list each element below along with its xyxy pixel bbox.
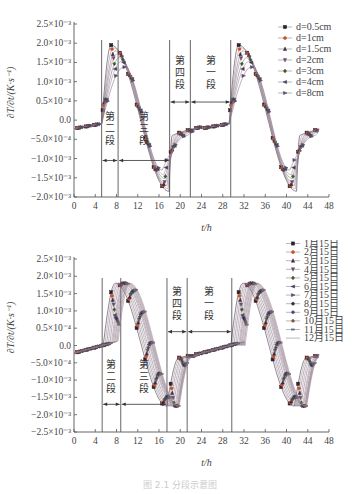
svg-text:段: 段 [206,78,216,90]
y-tick-label: −1.0×10⁻³ [31,154,71,164]
y-tick-label: 2.0×10⁻³ [36,271,71,281]
x-tick-label: 36 [261,201,271,211]
x-tick-label: 36 [261,436,271,446]
x-tick-label: 20 [176,201,186,211]
svg-text:第: 第 [172,285,182,297]
svg-text:段: 段 [204,309,214,321]
data-point-marker [297,382,300,385]
y-tick-label: −5.0×10⁻⁴ [31,358,72,368]
x-tick-label: 28 [218,436,228,446]
svg-text:第: 第 [139,358,149,370]
x-tick-label: 48 [324,436,334,446]
chart-depth-comparison: 2.5×10⁻³2.0×10⁻³1.5×10⁻³1.0×10⁻³0.5×10⁻⁴… [0,0,360,240]
x-tick-label: 8 [114,201,119,211]
legend-marker-icon [283,80,287,83]
legend: 1月15日2月15日3月15日4月15日5月15日6月15日7月15日8月15日… [286,240,344,343]
legend-label: d=4cm [296,76,324,87]
x-tick-label: 28 [218,201,228,211]
svg-text:第: 第 [105,110,115,122]
x-tick-label: 24 [197,201,207,211]
x-tick-label: 32 [239,201,249,211]
svg-text:一: 一 [206,67,216,78]
svg-text:二: 二 [105,123,115,134]
data-point-marker [238,47,241,50]
y-axis-title: ∂T/∂t/(K·s⁻¹) [5,66,17,118]
x-tick-label: 4 [93,436,98,446]
legend-label: d=0.5cm [296,21,332,32]
data-point-marker [112,57,115,61]
data-point-marker [313,362,316,363]
legend-item: d=3cm [278,65,324,76]
segment-label: 第一段 [206,54,216,90]
data-point-marker [186,362,189,363]
y-tick-label: −1.0×10⁻³ [31,375,71,385]
x-tick-label: 40 [282,201,292,211]
legend-item: d=2cm [278,54,324,65]
legend-item: d=1.5cm [278,43,332,54]
data-point-marker [110,44,113,47]
x-tick-label: 44 [303,201,313,211]
segment-annotations: 第二段第三段第四段第一段 [103,54,230,162]
svg-text:段: 段 [106,382,116,394]
svg-text:三: 三 [139,371,149,382]
segment-label: 第四段 [175,54,185,90]
legend-marker-icon [292,302,295,305]
x-tick-label: 32 [239,436,249,446]
svg-text:段: 段 [105,134,115,146]
legend-item: d=0.5cm [278,21,332,32]
legend-marker-icon [291,251,294,254]
y-tick-label: −1.5×10⁻³ [31,173,71,183]
svg-text:段: 段 [139,134,149,146]
legend-marker-icon [292,311,295,314]
legend-label: d=2cm [296,54,324,65]
x-tick-label: 12 [133,436,143,446]
y-tick-label: 0.5×10⁻⁴ [36,96,72,106]
data-point-marker [113,62,116,66]
y-tick-label: 1.0×10⁻³ [36,306,71,316]
legend-marker-icon [283,91,287,94]
chart-date-comparison: 2.5×10⁻³2.0×10⁻³1.5×10⁻³1.0×10⁻³0.5×10⁻⁴… [0,240,360,475]
y-tick-label: 1.0×10⁻³ [36,77,71,87]
legend-marker-icon [291,285,295,288]
legend-item: d=4cm [278,76,324,87]
legend-marker-icon [292,319,295,322]
segment-label: 第三段 [139,110,149,146]
chart-canvas-top: 2.5×10⁻³2.0×10⁻³1.5×10⁻³1.0×10⁻³0.5×10⁻⁴… [0,0,360,240]
legend-marker-icon [291,242,294,245]
x-tick-label: 20 [176,436,186,446]
x-tick-label: 0 [72,436,77,446]
legend-marker-icon [291,294,295,297]
x-tick-label: 12 [133,201,143,211]
data-point-marker [239,57,242,61]
x-axis-title: t/h [201,457,212,468]
segment-label: 第四段 [172,285,182,321]
chart-canvas-bottom: 2.5×10⁻³2.0×10⁻³1.5×10⁻³1.0×10⁻³0.5×10⁻⁴… [0,240,360,475]
y-tick-label: 1.5×10⁻³ [36,289,71,299]
svg-text:第: 第 [106,358,116,370]
y-tick-label: −5.0×10⁻⁴ [31,134,72,144]
legend-marker-icon [291,329,294,330]
y-tick-label: −2.0×10⁻³ [31,410,71,420]
legend-label: d=1cm [296,32,324,43]
legend-label: d=8cm [296,87,324,98]
segment-label: 第二段 [105,110,115,146]
svg-text:一: 一 [204,298,214,309]
legend-item: d=8cm [278,87,324,98]
y-tick-label: 0.5×10⁻⁴ [36,323,72,333]
legend-label: 12月15日 [304,332,344,343]
data-point-marker [242,74,246,77]
legend-label: d=3cm [296,65,324,76]
y-tick-label: 2.5×10⁻³ [36,19,71,29]
data-point-marker [111,52,114,56]
x-tick-label: 16 [154,436,164,446]
legend-marker-icon [291,276,294,280]
svg-text:二: 二 [106,371,116,382]
x-tick-label: 16 [154,201,164,211]
axes: 2.5×10⁻³2.0×10⁻³1.5×10⁻³1.0×10⁻³0.5×10⁻⁴… [5,19,334,233]
y-axis-title: ∂T/∂t/(K·s⁻¹) [5,301,17,353]
svg-text:段: 段 [175,78,185,90]
y-tick-label: 0.0 [59,341,71,351]
data-point-marker [239,52,242,56]
x-tick-label: 4 [93,201,98,211]
y-tick-label: 2.5×10⁻³ [36,254,71,264]
